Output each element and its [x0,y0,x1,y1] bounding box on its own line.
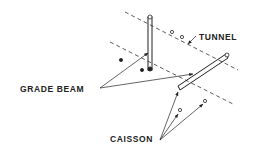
caisson-markers [119,30,206,111]
diagram-canvas: TUNNEL GRADE BEAM CAISSON [0,0,271,160]
diagonal-grade-beam [178,53,229,90]
caisson-label: CAISSON [110,134,153,144]
tunnel-label: TUNNEL [199,32,237,42]
grade-beam-label: GRADE BEAM [20,84,84,94]
